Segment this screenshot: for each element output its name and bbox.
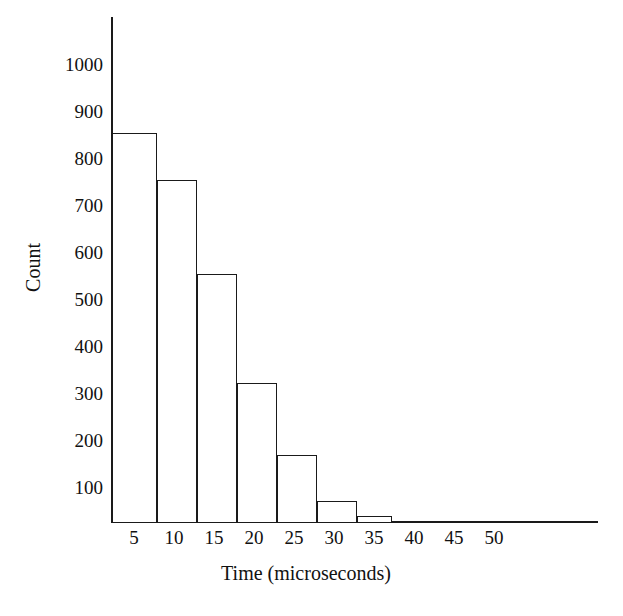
x-tick-label: 25	[285, 528, 304, 547]
x-tick-label: 30	[325, 528, 344, 547]
bar	[357, 516, 392, 522]
histogram-figure: 1000 900 800 700 600 500 400 300 200 100…	[0, 0, 623, 616]
bar	[277, 455, 317, 522]
x-tick-label: 15	[205, 528, 224, 547]
y-axis-title: Count	[22, 228, 45, 308]
bar	[317, 501, 357, 522]
x-tick-label: 35	[365, 528, 384, 547]
x-tick-label: 50	[485, 528, 504, 547]
x-axis-tick-labels: 5 10 15 20 25 30 35 40 45 50	[0, 528, 623, 554]
x-axis-title: Time (microseconds)	[111, 562, 501, 585]
x-tick-label: 40	[405, 528, 424, 547]
x-tick-label: 20	[245, 528, 264, 547]
bar	[157, 180, 197, 522]
x-tick-label: 5	[129, 528, 139, 547]
x-tick-label: 10	[165, 528, 184, 547]
bars-layer	[0, 0, 623, 616]
bar	[112, 133, 157, 522]
x-tick-label: 45	[445, 528, 464, 547]
bar	[237, 383, 277, 522]
bar	[197, 274, 237, 522]
